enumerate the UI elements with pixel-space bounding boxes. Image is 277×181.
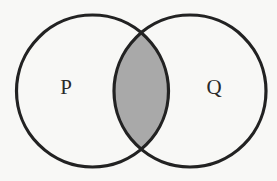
set-p-label: P: [60, 75, 72, 99]
venn-diagram-svg: P Q: [0, 0, 277, 181]
set-q-label: Q: [206, 75, 221, 99]
venn-diagram: P Q: [0, 0, 277, 181]
